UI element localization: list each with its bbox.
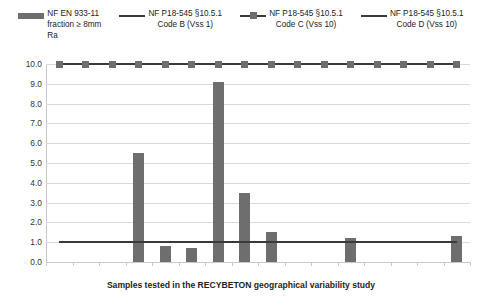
y-axis-tick-label: 10.0 — [4, 59, 42, 69]
y-axis-tick-label: 3.0 — [4, 198, 42, 208]
bar-series — [46, 64, 470, 262]
x-axis-tick — [364, 262, 365, 266]
legend-line-swatch-icon — [240, 10, 266, 21]
x-axis-tick — [46, 262, 47, 266]
y-axis-tick-label: 2.0 — [4, 217, 42, 227]
y-axis-tick-label: 7.0 — [4, 118, 42, 128]
bar — [160, 246, 171, 262]
x-axis-title: Samples tested in the RECYBETON geograph… — [0, 280, 482, 290]
line-swatch-icon — [119, 15, 145, 17]
bar — [266, 232, 277, 262]
legend-item-3: NF P18-545 §10.5.1 Code C (Vss 10) — [240, 8, 343, 30]
plot-area — [46, 64, 470, 262]
y-axis-tick-label: 6.0 — [4, 138, 42, 148]
x-axis-tick — [205, 262, 206, 266]
y-axis-tick-label: 4.0 — [4, 178, 42, 188]
legend-item-2: NF P18-545 §10.5.1 Code B (Vss 1) — [119, 8, 222, 30]
x-axis-tick — [126, 262, 127, 266]
x-axis-tick — [391, 262, 392, 266]
legend-item-4: NF P18-545 §10.5.1 Code D (Vss 10) — [361, 8, 464, 30]
x-axis-tick — [152, 262, 153, 266]
legend-label: NF P18-545 §10.5.1 Code B (Vss 1) — [148, 8, 222, 30]
bar — [133, 153, 144, 262]
x-axis-tick — [417, 262, 418, 266]
chart-container: NF EN 933-11 fraction ≥ 8mm RaNF P18-545… — [0, 0, 482, 306]
bar-swatch-icon — [18, 13, 44, 19]
bar — [345, 238, 356, 262]
legend-line-swatch-icon — [119, 10, 145, 21]
legend-label: NF P18-545 §10.5.1 Code D (Vss 10) — [390, 8, 464, 30]
x-axis-tick — [311, 262, 312, 266]
line-swatch-icon — [361, 15, 387, 17]
x-axis-tick — [258, 262, 259, 266]
x-axis-tick — [232, 262, 233, 266]
bar — [186, 248, 197, 262]
x-axis-tick — [338, 262, 339, 266]
square-marker-icon — [250, 12, 257, 19]
bar — [239, 193, 250, 262]
legend-line-swatch-icon — [361, 10, 387, 21]
bar — [213, 82, 224, 262]
legend-bar-swatch-icon — [18, 10, 44, 21]
y-axis-tick-label: 8.0 — [4, 99, 42, 109]
x-axis-ticks — [46, 262, 470, 267]
y-axis-tick-label: 1.0 — [4, 237, 42, 247]
y-axis-tick-label: 5.0 — [4, 158, 42, 168]
chart-legend: NF EN 933-11 fraction ≥ 8mm RaNF P18-545… — [0, 8, 482, 54]
x-axis-tick — [444, 262, 445, 266]
x-axis-tick — [73, 262, 74, 266]
y-axis-tick-label: 0.0 — [4, 257, 42, 267]
legend-item-1: NF EN 933-11 fraction ≥ 8mm Ra — [18, 8, 101, 42]
x-axis-tick — [285, 262, 286, 266]
bar — [451, 236, 462, 262]
y-axis-labels: 10.09.08.07.06.05.04.03.02.01.00.0 — [4, 58, 42, 270]
x-axis-tick — [179, 262, 180, 266]
y-axis-tick-label: 9.0 — [4, 79, 42, 89]
legend-label: NF EN 933-11 fraction ≥ 8mm Ra — [47, 8, 101, 42]
x-axis-tick — [470, 262, 471, 266]
legend-label: NF P18-545 §10.5.1 Code C (Vss 10) — [269, 8, 343, 30]
x-axis-tick — [99, 262, 100, 266]
